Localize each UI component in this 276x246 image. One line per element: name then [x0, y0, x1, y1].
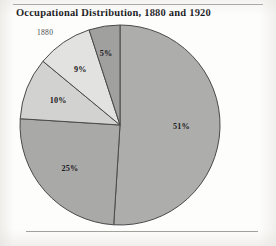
pie-slice-label: 10% — [50, 96, 67, 105]
pie-chart — [14, 24, 226, 226]
chart-title: Occupational Distribution, 1880 and 1920 — [16, 7, 264, 18]
bottom-divider — [26, 231, 258, 232]
pie-slice-label: 25% — [61, 164, 78, 173]
title-divider — [13, 4, 263, 5]
pie-slice-label: 5% — [100, 49, 113, 58]
figure-panel: Occupational Distribution, 1880 and 1920… — [0, 0, 276, 246]
pie-slice-group — [20, 25, 220, 225]
pie-svg — [14, 24, 226, 226]
pie-slice-label: 9% — [74, 65, 87, 74]
pie-slice-label: 51% — [173, 122, 190, 131]
pie-slice — [114, 25, 220, 225]
pie-year-caption: 1880 — [37, 28, 53, 37]
